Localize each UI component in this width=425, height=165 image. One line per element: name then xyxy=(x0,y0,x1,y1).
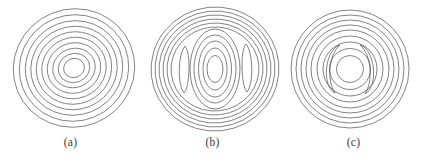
panel-caption-b: (b) xyxy=(142,136,283,148)
contour-plot-c xyxy=(283,0,424,138)
contour-ring xyxy=(207,56,223,83)
contour-ring xyxy=(203,48,227,90)
contour-ring xyxy=(337,56,364,83)
contour-ring xyxy=(296,15,404,123)
figure-container: (a) (b) xyxy=(0,0,425,165)
panel-caption-c: (c) xyxy=(283,136,424,148)
panel-caption-a: (a) xyxy=(0,136,141,148)
contour-ring xyxy=(40,35,109,102)
contour-ring xyxy=(323,42,377,96)
contour-ring xyxy=(145,1,283,138)
panel-b: (b) xyxy=(142,0,283,165)
contour-center-ovals-b xyxy=(190,29,240,109)
panel-a: (a) xyxy=(0,0,141,165)
contour-plot-b xyxy=(142,0,283,138)
contour-ring xyxy=(306,25,394,113)
contour-ring xyxy=(61,55,88,80)
contour-ring xyxy=(291,10,409,128)
contour-ring xyxy=(194,35,236,103)
contour-rings-c xyxy=(291,10,409,128)
contour-lobe-right xyxy=(242,44,252,92)
panel-c: (c) xyxy=(283,0,424,165)
contour-hook-arcs-c xyxy=(326,45,373,94)
contour-lobe-left xyxy=(179,46,189,93)
contour-ring xyxy=(149,5,280,133)
contour-rings-a xyxy=(0,0,141,138)
contour-ring xyxy=(11,6,137,130)
contour-ring xyxy=(32,28,115,109)
contour-plot-a xyxy=(0,0,141,138)
contour-ring xyxy=(199,41,232,97)
contour-ring xyxy=(330,49,371,90)
contour-ring xyxy=(301,20,399,118)
contour-outer-rings-b xyxy=(145,1,283,138)
